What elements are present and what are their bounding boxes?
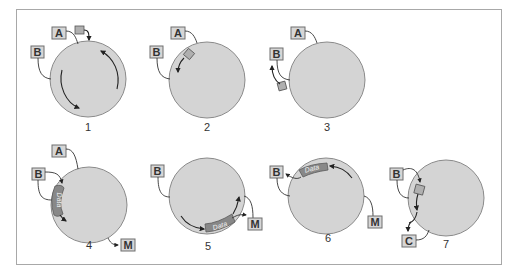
svg-text:A: A (174, 27, 182, 39)
svg-text:B: B (34, 46, 42, 58)
svg-text:A: A (55, 145, 63, 157)
cell-circle (289, 42, 365, 118)
panel-number: 7 (443, 238, 449, 250)
label-b: B (151, 165, 164, 177)
label-a: A (291, 27, 305, 39)
diagram-canvas: A B 1 A B 2 A (0, 0, 508, 273)
svg-text:B: B (154, 165, 162, 177)
panel-number: 1 (85, 121, 91, 133)
label-a: A (52, 145, 66, 157)
label-a: A (52, 27, 66, 39)
label-a: A (171, 27, 185, 39)
svg-text:A: A (294, 27, 302, 39)
label-c: C (402, 235, 416, 247)
label-b: B (31, 46, 44, 58)
cell-circle (408, 160, 484, 236)
svg-text:M: M (123, 239, 132, 251)
panel-number: 4 (86, 239, 92, 251)
panel-number: 5 (205, 240, 211, 252)
panel-number: 3 (324, 121, 330, 133)
panel-number: 6 (325, 232, 331, 244)
svg-text:M: M (250, 218, 259, 230)
svg-text:B: B (273, 48, 281, 60)
cell-circle (169, 42, 245, 118)
svg-text:C: C (405, 235, 413, 247)
token-icon (75, 26, 84, 34)
label-m: M (248, 218, 262, 230)
label-m: M (368, 216, 382, 228)
svg-text:M: M (370, 216, 379, 228)
label-b: B (32, 168, 45, 180)
svg-text:A: A (55, 27, 63, 39)
panel-number: 2 (204, 121, 210, 133)
label-b: B (270, 48, 283, 60)
data-band-label: Data (56, 193, 63, 208)
label-b: B (390, 168, 403, 180)
label-m: M (121, 239, 135, 251)
svg-text:B: B (35, 168, 43, 180)
svg-text:B: B (393, 168, 401, 180)
svg-text:B: B (273, 166, 281, 178)
svg-text:B: B (153, 46, 161, 58)
label-b: B (270, 166, 283, 178)
token-icon (414, 184, 425, 195)
label-b: B (150, 46, 163, 58)
